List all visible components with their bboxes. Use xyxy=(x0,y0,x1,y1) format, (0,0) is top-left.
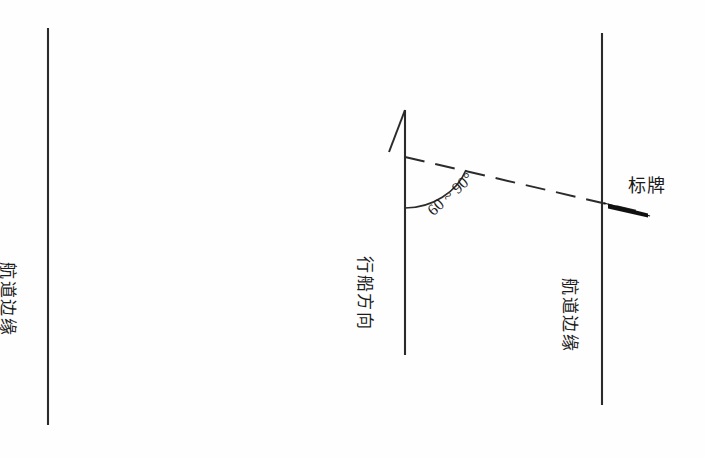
sign-bar-stem xyxy=(604,203,650,216)
diagram-canvas: 航道边缘 行船方向 航道边缘 60 ~ 90° 标牌 xyxy=(0,0,705,458)
right-channel-edge-label: 航道边缘 xyxy=(559,278,584,352)
sail-direction-label: 行船方向 xyxy=(354,256,379,330)
direction-arrowhead xyxy=(389,110,405,152)
sign-label: 标牌 xyxy=(628,171,666,197)
left-channel-edge-label: 航道边缘 xyxy=(0,262,22,336)
diagram-vector-layer xyxy=(0,0,705,458)
